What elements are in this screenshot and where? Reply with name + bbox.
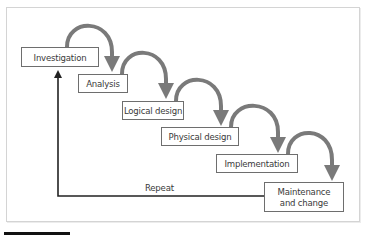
footer-rule [4,232,70,235]
stage-maintenance-and-change: Maintenance and change [264,182,344,212]
repeat-label: Repeat [145,182,174,193]
stage-implementation: Implementation [216,154,298,173]
arc-arrow-analysis-to-logical-design [122,53,166,91]
stage-analysis: Analysis [78,74,128,93]
stage-physical-design: Physical design [161,127,239,146]
stage-logical-design: Logical design [122,101,184,120]
stage-investigation: Investigation [21,47,99,67]
